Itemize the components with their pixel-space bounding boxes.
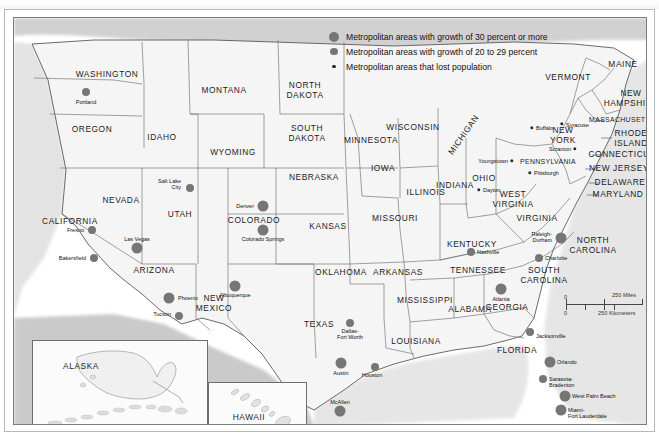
city-dot-atlanta — [496, 284, 507, 295]
alaska-geography — [33, 341, 206, 425]
state-label-kansas: KANSAS — [309, 222, 346, 232]
state-label-arizona: ARIZONA — [133, 266, 174, 276]
state-label-delaware: DELAWARE — [595, 178, 646, 188]
city-label-sarasota-bradenton: Sarasota-Bradenton — [549, 376, 574, 389]
city-label-portland: Portland — [76, 99, 97, 105]
inset-hawaii: HAWAII — [208, 382, 307, 425]
state-label-north-dakota: NORTHDAKOTA — [286, 81, 323, 100]
city-dot-phoenix — [164, 293, 175, 304]
city-dot-orlando — [545, 357, 556, 368]
state-label-texas: TEXAS — [304, 320, 334, 330]
state-label-south-dakota: SOUTHDAKOTA — [288, 124, 325, 143]
state-label-mississippi: MISSISSIPPI — [397, 296, 453, 306]
state-label-minnesota: MINNESOTA — [344, 136, 398, 146]
city-dot-denver — [258, 201, 269, 212]
cut-off-header-sliver — [0, 0, 659, 9]
state-label-indiana: INDIANA — [436, 181, 474, 191]
legend: Metropolitan areas with growth of 30 per… — [326, 29, 548, 74]
city-label-youngstown: Youngstown — [478, 158, 508, 164]
city-dot-portland — [82, 88, 90, 96]
state-label-virginia: VIRGINIA — [516, 214, 557, 224]
state-label-montana: MONTANA — [201, 86, 246, 96]
city-dot-miami-fort-lauderdale — [556, 405, 567, 416]
city-dot-austin — [336, 358, 347, 369]
city-label-buffalo: Buffalo — [536, 125, 553, 131]
city-label-west-palm-beach: West Palm Beach — [572, 393, 616, 399]
city-label-scranton: Scranton — [549, 146, 571, 152]
scale-bar: 0 250 Miles 0 250 Kilometers — [562, 290, 647, 324]
city-label-nashville: Nashville — [477, 249, 499, 255]
city-dot-raleigh-durham — [556, 233, 567, 244]
state-label-florida: FLORIDA — [497, 346, 537, 356]
state-label-louisiana: LOUISIANA — [391, 337, 441, 347]
state-label-wyoming: WYOMING — [210, 148, 256, 158]
city-dot-salt-lake-city — [186, 184, 194, 192]
state-label-nebraska: NEBRASKA — [289, 173, 339, 183]
city-label-raleigh-durham: Raleigh-Durham — [532, 231, 552, 244]
inset-alaska: ALASKA — [32, 340, 208, 425]
city-label-phoenix: Phoenix — [178, 295, 198, 301]
city-label-dayton: Dayton — [483, 187, 500, 193]
legend-label-growth-20-29: Metropolitan areas with growth of 20 to … — [342, 47, 537, 57]
state-label-new-hampshire: NEWHAMPSHIRE — [604, 89, 647, 108]
city-dot-fresno — [88, 226, 96, 234]
city-label-orlando: Orlando — [557, 359, 577, 365]
state-label-south-carolina: SOUTHCAROLINA — [520, 266, 567, 285]
city-label-jacksonville: Jacksonville — [536, 333, 566, 339]
state-label-nevada: NEVADA — [102, 196, 139, 206]
city-label-fresno: Fresno — [67, 227, 84, 233]
scale-miles-label: 250 Miles — [612, 292, 636, 298]
legend-item-growth-30: Metropolitan areas with growth of 30 per… — [326, 29, 548, 44]
state-label-oklahoma: OKLAHOMA — [315, 268, 367, 278]
city-dot-dallas-fort-worth — [346, 319, 354, 327]
city-label-charlotte: Charlotte — [545, 255, 567, 261]
map-page: Metropolitan areas with growth of 30 per… — [0, 0, 659, 436]
legend-label-growth-30: Metropolitan areas with growth of 30 per… — [342, 32, 548, 42]
state-label-ohio: OHIO — [472, 174, 496, 184]
scale-km-zero: 0 — [564, 310, 567, 316]
legend-item-lost-population: Metropolitan areas that lost population — [326, 59, 548, 74]
state-label-georgia: GEORGIA — [486, 303, 529, 313]
city-dot-sarasota-bradenton — [539, 375, 547, 383]
city-dot-tucson — [175, 312, 183, 320]
city-dot-bakersfield — [90, 254, 98, 262]
city-label-atlanta: Atlanta — [492, 296, 509, 302]
city-dot-charlotte — [535, 254, 543, 262]
city-dot-las-vegas — [132, 243, 143, 254]
city-label-las-vegas: Las Vegas — [124, 236, 150, 242]
state-label-iowa: IOWA — [371, 164, 395, 174]
inset-label-alaska: ALASKA — [63, 362, 99, 372]
state-label-arkansas: ARKANSAS — [373, 268, 423, 278]
state-label-connecticut: CONNECTICUT — [589, 150, 648, 160]
legend-dot-large-icon — [326, 32, 342, 42]
city-label-mcallen: McAllen — [330, 399, 350, 405]
state-label-missouri: MISSOURI — [372, 214, 418, 224]
city-label-tucson: Tucson — [153, 311, 171, 317]
inset-label-hawaii: HAWAII — [233, 413, 265, 423]
city-label-denver: Denver — [236, 203, 254, 209]
state-label-maryland: MARYLAND — [593, 190, 644, 200]
state-label-oregon: OREGON — [72, 125, 113, 135]
state-label-idaho: IDAHO — [147, 133, 176, 143]
city-label-salt-lake-city: Salt LakeCity — [158, 178, 181, 191]
state-label-rhode-island: RHODEISLAND — [614, 129, 647, 148]
city-label-colorado-springs: Colorado Springs — [242, 236, 285, 242]
state-label-new-york: NEWYORK — [550, 126, 576, 145]
legend-dot-medium-icon — [326, 48, 342, 56]
city-label-houston: Houston — [362, 372, 383, 378]
legend-item-growth-20-29: Metropolitan areas with growth of 20 to … — [326, 44, 548, 59]
city-label-miami-fort-lauderdale: Miami-Fort Lauderdale — [568, 407, 607, 420]
city-label-bakersfield: Bakersfield — [59, 255, 86, 261]
state-label-massachusetts: MASSACHUSETTS — [589, 115, 647, 125]
state-label-colorado: COLORADO — [228, 216, 280, 226]
city-label-albuquerque: Albuquerque — [219, 292, 250, 298]
map-outer-frame: Metropolitan areas with growth of 30 per… — [4, 9, 655, 432]
city-dot-albuquerque — [230, 281, 241, 292]
city-dot-mcallen — [335, 406, 346, 417]
state-label-north-carolina: NORTHCAROLINA — [569, 236, 616, 255]
scale-km-label: 250 Kilometers — [598, 310, 635, 316]
city-dot-west-palm-beach — [560, 391, 571, 402]
map-plate: Metropolitan areas with growth of 30 per… — [13, 17, 647, 425]
city-dot-nashville — [467, 248, 475, 256]
city-label-syracuse: Syracuse — [566, 122, 589, 128]
